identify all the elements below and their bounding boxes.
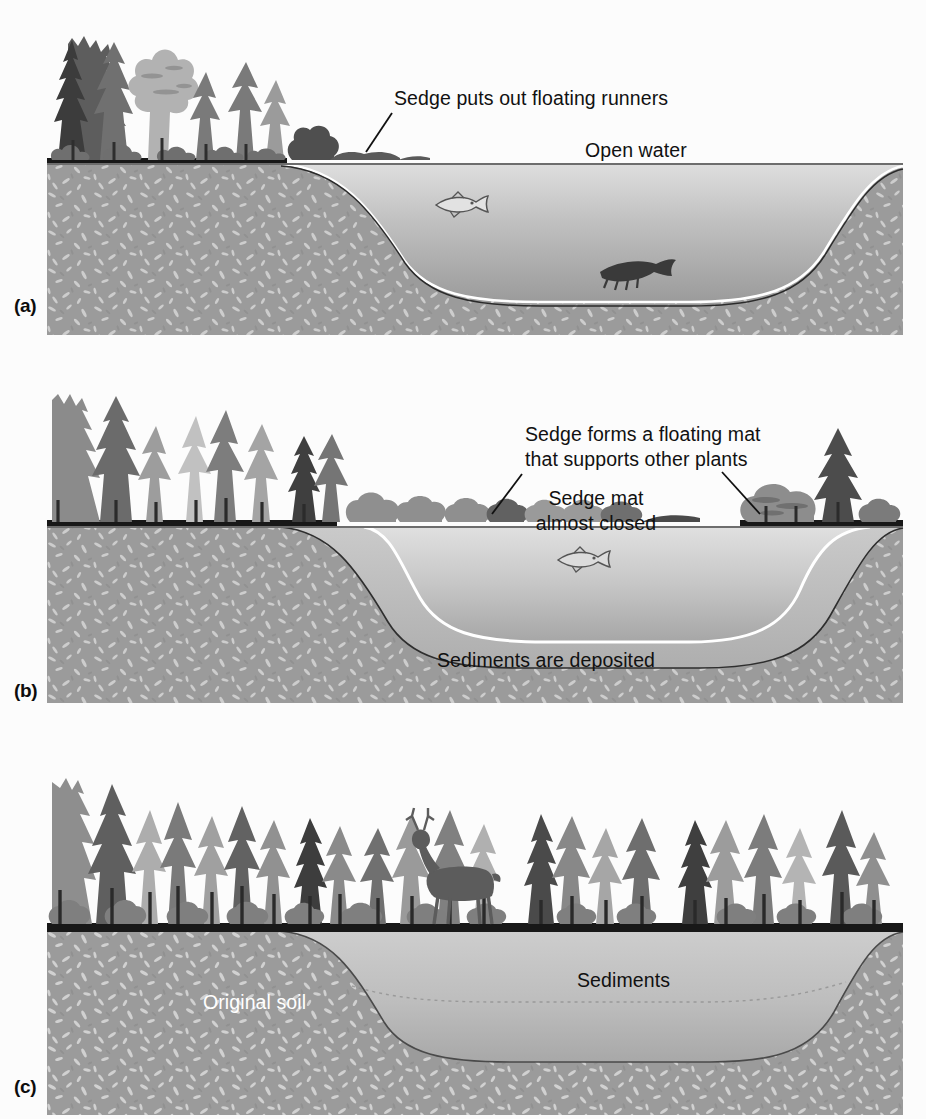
sediments-deposited-label-b: Sediments are deposited	[437, 648, 655, 673]
panel-a-illustration	[0, 0, 926, 340]
original-soil-label-c: Original soil	[203, 990, 306, 1015]
panel-b-floating-mat-stage: (b) Sedge forms a floating mat that supp…	[0, 350, 926, 725]
soil-top-edge-b	[47, 526, 903, 528]
sediments-label-c: Sediments	[577, 968, 670, 993]
sedge-mat-closed-label-b: Sedge mat almost closed	[516, 486, 676, 535]
panel-a-open-water-stage: (a) Sedge puts out floating runners Open…	[0, 0, 926, 340]
sedge-mat-plants-label-b: Sedge forms a floating mat that supports…	[525, 422, 761, 471]
forest-right-b	[740, 428, 900, 522]
panel-c-illustration	[0, 740, 926, 1119]
forest-left-a	[51, 36, 430, 160]
panel-a-label: (a)	[14, 295, 36, 317]
ground-line-c	[47, 923, 903, 932]
succession-figure: (a) Sedge puts out floating runners Open…	[0, 0, 926, 1119]
open-water-label-a: Open water	[585, 138, 687, 163]
panel-c-label: (c)	[14, 1076, 36, 1098]
panel-b-label: (b)	[14, 680, 37, 702]
soil-top-edge-a	[47, 163, 903, 165]
sedge-runners-a	[330, 152, 400, 160]
forest-c	[49, 778, 890, 924]
panel-c-filled-forest-stage: (c) Original soil Sediments	[0, 740, 926, 1119]
sedge-runners-label-a: Sedge puts out floating runners	[394, 86, 668, 111]
